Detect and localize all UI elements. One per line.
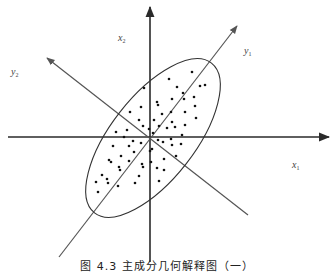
data-point [153, 119, 156, 122]
data-point [128, 145, 131, 148]
data-point [184, 111, 187, 114]
y1-axis-label: y1 [244, 46, 251, 57]
data-point [142, 125, 145, 128]
data-point [101, 174, 104, 177]
data-ellipse [61, 37, 244, 238]
data-point [95, 181, 98, 184]
x2-axis-label: x2 [118, 33, 125, 44]
data-point [132, 140, 135, 143]
data-point [133, 151, 136, 154]
data-point [143, 87, 146, 90]
data-point [115, 131, 118, 134]
data-point [199, 85, 202, 88]
data-point [157, 139, 160, 142]
data-point [191, 71, 194, 74]
data-point [166, 127, 169, 130]
data-point [170, 111, 173, 114]
data-point [149, 150, 152, 153]
figure-caption: 图 4.3 主成分几何解释图（一） [0, 260, 334, 273]
data-point [163, 158, 166, 161]
data-point [158, 180, 161, 183]
data-point [162, 141, 165, 144]
data-point [157, 104, 160, 107]
data-point [175, 155, 178, 158]
y2-axis-label: y2 [11, 67, 18, 78]
pca-geometric-diagram [0, 0, 334, 273]
data-point [180, 143, 183, 146]
data-point [119, 169, 122, 172]
data-point [120, 155, 123, 158]
data-point [156, 167, 159, 170]
data-point [171, 144, 174, 147]
data-point [126, 129, 129, 132]
data-point [156, 101, 159, 104]
data-point [183, 98, 186, 101]
data-point [181, 134, 184, 137]
data-point [107, 182, 110, 185]
data-point [176, 86, 179, 89]
data-point [151, 148, 154, 151]
data-point [174, 126, 177, 129]
data-point [168, 78, 171, 81]
data-point [184, 124, 187, 127]
data-point [152, 132, 155, 135]
data-point [163, 169, 166, 172]
data-point [128, 160, 131, 163]
data-point [97, 191, 100, 194]
data-point [112, 145, 115, 148]
data-point [141, 163, 144, 166]
data-point [138, 119, 141, 122]
data-point [170, 138, 173, 141]
data-point [171, 121, 174, 124]
data-point [118, 166, 121, 169]
y1-axis [59, 26, 237, 257]
data-point [134, 182, 137, 185]
data-point [194, 105, 197, 108]
data-point [182, 92, 185, 95]
data-point [142, 166, 145, 169]
data-point [195, 117, 198, 120]
data-point [117, 185, 120, 188]
data-point [110, 161, 113, 164]
data-point [193, 96, 196, 99]
data-point [148, 128, 151, 131]
data-point [158, 125, 161, 128]
data-point [129, 111, 132, 114]
data-point [138, 175, 141, 178]
data-point [150, 161, 153, 164]
data-point [140, 106, 143, 109]
x1-axis-label: x1 [292, 160, 299, 171]
data-point [171, 98, 174, 101]
data-point [108, 159, 111, 162]
data-point [140, 142, 143, 145]
data-point [106, 178, 109, 181]
data-point [161, 113, 164, 116]
data-point [123, 136, 126, 139]
data-point [204, 84, 207, 87]
